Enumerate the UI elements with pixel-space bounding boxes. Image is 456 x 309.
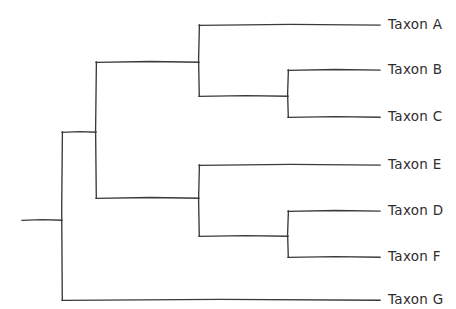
tip-label-taxon-c: Taxon C: [388, 110, 443, 124]
phylogenetic-tree-figure: Taxon A Taxon B Taxon C Taxon E Taxon D …: [0, 0, 456, 309]
tip-label-taxon-b: Taxon B: [388, 63, 442, 77]
tip-label-taxon-e: Taxon E: [388, 158, 442, 172]
tip-label-taxon-a: Taxon A: [388, 18, 442, 32]
tip-label-taxon-d: Taxon D: [388, 204, 443, 218]
tip-label-taxon-g: Taxon G: [388, 293, 444, 307]
tip-label-group: Taxon A Taxon B Taxon C Taxon E Taxon D …: [0, 0, 456, 309]
tip-label-taxon-f: Taxon F: [388, 250, 441, 264]
